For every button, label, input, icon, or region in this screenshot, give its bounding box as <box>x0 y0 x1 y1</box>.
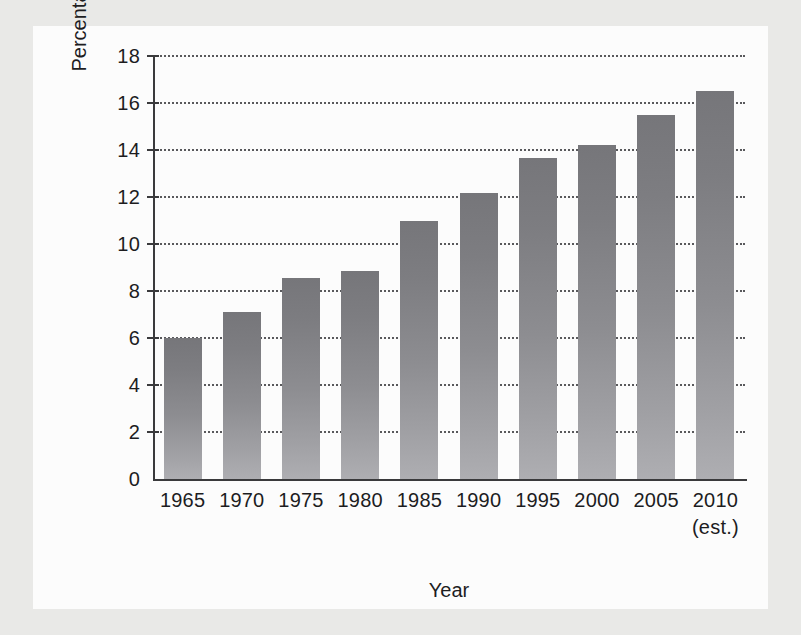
x-axis-tick-label-text: 1975 <box>278 489 323 511</box>
y-axis-tick-label: 4 <box>129 374 140 397</box>
x-axis-tick-label-text: 1970 <box>219 489 264 511</box>
bar <box>578 145 616 479</box>
y-axis-tick-label: 18 <box>117 45 140 68</box>
figure-plate: Percentage of Total National Income 0246… <box>33 26 768 609</box>
y-axis-tick-label: 0 <box>129 468 140 491</box>
bar <box>223 312 261 479</box>
y-axis-tick-label: 6 <box>129 327 140 350</box>
bar <box>341 271 379 479</box>
plot-area: 024681012141618 <box>153 56 745 479</box>
bar <box>696 91 734 479</box>
x-axis-tick-label-text: 1980 <box>338 489 383 511</box>
x-axis-tick-label-text: 1965 <box>160 489 205 511</box>
y-axis-tick-label: 16 <box>117 92 140 115</box>
bar <box>282 278 320 479</box>
y-axis-tick-label: 14 <box>117 139 140 162</box>
x-axis-title: Year <box>153 579 745 602</box>
x-axis-tick-label-text: 2010 <box>693 489 738 511</box>
figure-page: Percentage of Total National Income 0246… <box>0 0 801 635</box>
x-axis-tick-label: 2010(est.) <box>675 489 755 539</box>
y-axis-title-wrapper: Percentage of Total National Income <box>43 56 79 479</box>
bar-series <box>153 56 745 479</box>
y-axis-tick-label: 8 <box>129 280 140 303</box>
y-axis-tick-label: 12 <box>117 186 140 209</box>
y-axis-tick-label: 2 <box>129 421 140 444</box>
bar <box>164 338 202 479</box>
y-axis-title: Percentage of Total National Income <box>61 0 97 122</box>
bar <box>637 115 675 479</box>
bar <box>400 221 438 480</box>
x-axis-tick-sublabel: (est.) <box>675 516 755 539</box>
bar-chart: Percentage of Total National Income 0246… <box>33 26 768 609</box>
x-axis-tick-label-text: 1995 <box>515 489 560 511</box>
x-axis-tick-label-text: 2000 <box>574 489 619 511</box>
x-axis-tick-label-text: 2005 <box>634 489 679 511</box>
y-axis-tick-label: 10 <box>117 233 140 256</box>
x-axis-tick-label-text: 1990 <box>456 489 501 511</box>
x-axis-tick-labels: 1965197019751980198519901995200020052010… <box>153 489 745 569</box>
x-axis-tick-label-text: 1985 <box>397 489 442 511</box>
x-axis-line <box>153 479 747 481</box>
bar <box>519 158 557 479</box>
bar <box>460 193 498 479</box>
